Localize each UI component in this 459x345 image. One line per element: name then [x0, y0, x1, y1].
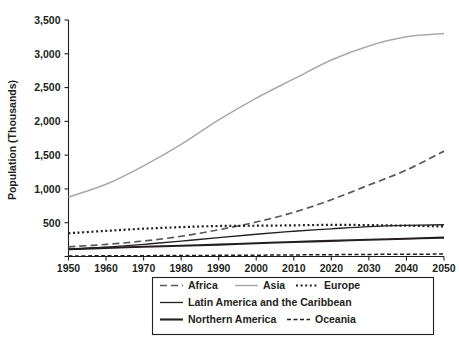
x-tick-label: 2000 [245, 262, 269, 274]
y-axis-title: Population (Thousands) [6, 80, 18, 200]
x-tick-label: 2020 [320, 262, 344, 274]
x-tick-label: 1980 [169, 262, 193, 274]
legend-label: Northern America [188, 313, 276, 325]
x-tick-label: 2040 [395, 262, 419, 274]
y-tick-label: 1,000 [34, 183, 60, 195]
x-tick-label: 2050 [432, 262, 456, 274]
chart-legend: AfricaAsiaEuropeLatin America and the Ca… [153, 278, 434, 335]
y-axis-title-text: Population (Thousands) [6, 80, 18, 200]
legend-label: Europe [324, 279, 360, 291]
x-tick-label: 2010 [282, 262, 306, 274]
x-tick-label: 1970 [132, 262, 156, 274]
x-tick-label: 2030 [357, 262, 381, 274]
y-tick-label: 3,000 [34, 48, 60, 60]
x-tick-label: 1960 [94, 262, 118, 274]
x-tick-label: 1950 [57, 262, 81, 274]
y-tick-label: 3,500 [34, 14, 60, 26]
legend-label: Latin America and the Caribbean [188, 296, 352, 308]
x-tick-label: 1990 [207, 262, 231, 274]
population-line-chart: Population (Thousands) 5001,0001,5002,00… [0, 0, 459, 345]
y-tick-label: 2,500 [34, 81, 60, 93]
y-tick-label: 500 [43, 217, 61, 229]
y-tick-label: 1,500 [34, 149, 60, 161]
legend-label: Africa [188, 279, 218, 291]
y-tick-label: 2,000 [34, 115, 60, 127]
legend-label: Asia [263, 279, 285, 291]
legend-label: Oceania [315, 313, 356, 325]
